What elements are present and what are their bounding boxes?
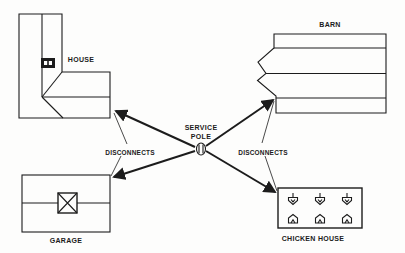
farm-wiring-diagram: HOUSE BARN GARAGE CHICKEN HOUSE SERVICE … bbox=[0, 0, 405, 253]
hanging-fixture-icon bbox=[289, 193, 298, 205]
garage-building bbox=[22, 175, 110, 232]
feeder-to-chicken-house bbox=[206, 151, 275, 192]
house-building bbox=[19, 14, 110, 118]
feeder-lines bbox=[114, 100, 275, 192]
barn-label: BARN bbox=[319, 21, 340, 28]
garage-label: GARAGE bbox=[50, 237, 83, 244]
feeder-to-house bbox=[116, 111, 195, 147]
diagram-canvas: HOUSE BARN GARAGE CHICKEN HOUSE SERVICE … bbox=[0, 0, 405, 253]
floor-fixture-icon bbox=[316, 215, 325, 224]
disconnects-left-label: DISCONNECTS bbox=[105, 149, 155, 156]
roof-vent-icon bbox=[58, 193, 77, 213]
floor-fixture-icon bbox=[343, 215, 352, 224]
house-label: HOUSE bbox=[68, 56, 94, 63]
disconnects-right-label: DISCONNECTS bbox=[238, 149, 288, 156]
chicken-house-building bbox=[278, 188, 362, 228]
service-pole-label-line1: SERVICE bbox=[185, 124, 218, 131]
hanging-fixture-icon bbox=[343, 193, 352, 205]
hanging-fixture-icon bbox=[316, 193, 325, 205]
service-pole-label-line2: POLE bbox=[191, 133, 211, 140]
meter-icon bbox=[41, 58, 55, 68]
floor-fixture-icon bbox=[289, 215, 298, 224]
chicken-house-label: CHICKEN HOUSE bbox=[282, 235, 345, 242]
service-pole-icon bbox=[197, 143, 206, 155]
barn-building bbox=[258, 34, 387, 113]
